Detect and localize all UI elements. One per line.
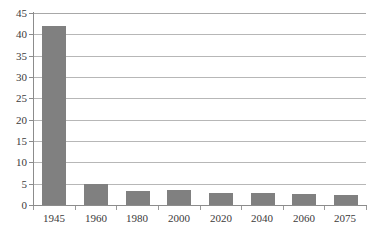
y-tick-15 xyxy=(29,141,33,142)
x-tick-boundary-7 xyxy=(324,206,325,210)
x-tick-boundary-8 xyxy=(366,206,367,210)
y-axis-label-25: 25 xyxy=(1,93,27,104)
y-tick-20 xyxy=(29,120,33,121)
bar-2000 xyxy=(167,190,191,205)
x-tick-boundary-0 xyxy=(33,206,34,210)
x-axis-label-2000: 2000 xyxy=(168,212,190,224)
x-axis-label-2040: 2040 xyxy=(251,212,273,224)
bar-1980 xyxy=(126,191,150,206)
y-tick-10 xyxy=(29,162,33,163)
y-tick-25 xyxy=(29,98,33,99)
y-axis-label-35: 35 xyxy=(1,51,27,62)
y-axis-label-5: 5 xyxy=(1,179,27,190)
y-axis-label-40: 40 xyxy=(1,29,27,40)
x-tick-boundary-6 xyxy=(283,206,284,210)
bar-2075 xyxy=(334,195,358,205)
x-axis-label-1945: 1945 xyxy=(43,212,65,224)
bar-1945 xyxy=(42,26,66,205)
y-axis-label-10: 10 xyxy=(1,157,27,168)
x-axis-label-2060: 2060 xyxy=(293,212,315,224)
y-axis-labels: 45 40 35 30 25 20 15 10 5 0 xyxy=(0,0,27,242)
y-tick-40 xyxy=(29,34,33,35)
bars-layer xyxy=(33,13,366,205)
x-axis-label-2020: 2020 xyxy=(210,212,232,224)
y-tick-5 xyxy=(29,184,33,185)
bar-2020 xyxy=(209,193,233,205)
bar-1960 xyxy=(84,184,108,205)
y-axis-line xyxy=(33,12,34,206)
bar-2040 xyxy=(251,193,275,205)
y-axis-label-30: 30 xyxy=(1,72,27,83)
bar-chart: 45 40 35 30 25 20 15 10 5 0 1945 1960 19… xyxy=(0,0,388,242)
bar-2060 xyxy=(292,194,316,205)
y-axis-label-20: 20 xyxy=(1,115,27,126)
x-tick-boundary-2 xyxy=(116,206,117,210)
x-axis-label-1980: 1980 xyxy=(126,212,148,224)
y-axis-label-15: 15 xyxy=(1,136,27,147)
x-tick-boundary-4 xyxy=(200,206,201,210)
y-tick-30 xyxy=(29,77,33,78)
x-axis-label-1960: 1960 xyxy=(85,212,107,224)
x-axis-label-2075: 2075 xyxy=(334,212,356,224)
x-tick-boundary-5 xyxy=(241,206,242,210)
y-tick-35 xyxy=(29,56,33,57)
y-tick-45 xyxy=(29,13,33,14)
x-tick-boundary-1 xyxy=(75,206,76,210)
x-tick-boundary-3 xyxy=(158,206,159,210)
y-axis-label-0: 0 xyxy=(1,200,27,211)
y-axis-label-45: 45 xyxy=(1,8,27,19)
